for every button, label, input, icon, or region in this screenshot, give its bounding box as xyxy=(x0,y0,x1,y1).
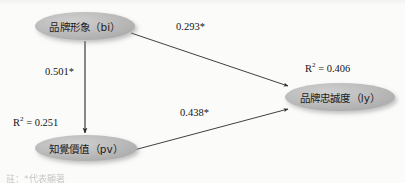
coefficient-pv-to-ly: 0.438* xyxy=(180,107,209,118)
path-diagram: 品牌形象（bi） 知覺價值（pv） 品牌忠誠度（ly） 0.293* 0.501… xyxy=(0,0,405,183)
rsquared-pv: R2 = 0.251 xyxy=(13,115,58,128)
node-ly-shape[interactable] xyxy=(285,83,395,111)
edge-bi-to-ly xyxy=(131,33,288,86)
coefficient-bi-to-pv: 0.501* xyxy=(45,66,74,77)
rsquared-ly-symbol: R xyxy=(305,63,312,74)
node-bi-shape[interactable] xyxy=(35,12,135,40)
node-pv-shape[interactable] xyxy=(35,135,137,161)
footnote: 註：*代表顯著 xyxy=(6,172,65,183)
edge-pv-to-ly xyxy=(134,109,288,150)
rsquared-ly-equals: = xyxy=(316,63,327,74)
rsquared-ly-value: 0.406 xyxy=(327,63,351,74)
coefficient-bi-to-ly: 0.293* xyxy=(176,21,205,32)
rsquared-pv-equals: = xyxy=(24,117,35,128)
edge-layer xyxy=(85,33,288,150)
rsquared-pv-symbol: R xyxy=(13,117,20,128)
rsquared-pv-value: 0.251 xyxy=(35,117,59,128)
node-layer xyxy=(35,12,395,161)
rsquared-ly: R2 = 0.406 xyxy=(305,61,350,74)
